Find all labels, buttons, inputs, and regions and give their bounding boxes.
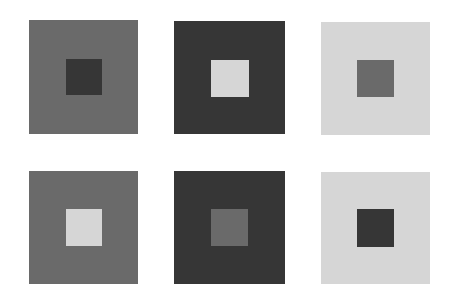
simultaneous-contrast-figure xyxy=(0,0,452,303)
inner-square-r1c3 xyxy=(357,60,394,97)
inner-square-r2c2 xyxy=(211,209,248,246)
inner-square-r1c2 xyxy=(211,60,249,97)
inner-square-r2c3 xyxy=(357,209,394,247)
inner-square-r2c1 xyxy=(66,209,102,246)
inner-square-r1c1 xyxy=(66,59,102,95)
